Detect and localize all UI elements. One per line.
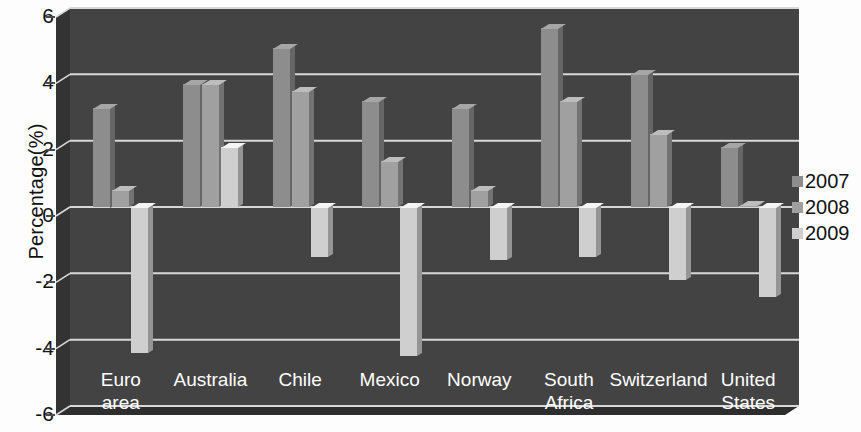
bar-front-face xyxy=(311,207,328,257)
legend-label: 2008 xyxy=(805,197,850,217)
bar-side-face xyxy=(667,131,672,207)
plot-area: Euro areaAustraliaChileMexicoNorwaySouth… xyxy=(48,0,808,432)
bar-front-face xyxy=(131,207,148,353)
legend-swatch-icon xyxy=(792,228,803,239)
bar-front-face xyxy=(381,161,398,207)
legend-swatch-icon xyxy=(792,176,803,187)
bar xyxy=(362,101,379,207)
bar-side-face xyxy=(507,204,512,260)
legend-item[interactable]: 2009 xyxy=(792,220,858,246)
legend-label: 2007 xyxy=(805,171,850,191)
bar xyxy=(202,84,219,207)
bar xyxy=(292,91,309,207)
bar xyxy=(740,205,757,207)
bars-layer: Euro areaAustraliaChileMexicoNorwaySouth… xyxy=(48,0,808,432)
bar xyxy=(452,108,469,208)
bar xyxy=(721,147,738,207)
bar xyxy=(381,161,398,207)
bar xyxy=(183,84,200,207)
bar-side-face xyxy=(238,144,243,207)
bar-side-face xyxy=(309,88,314,207)
bar-front-face xyxy=(471,190,488,207)
bar xyxy=(273,48,290,207)
bar-front-face xyxy=(273,48,290,207)
bar xyxy=(490,207,507,260)
x-axis-category-label: United States xyxy=(695,368,801,414)
bar-front-face xyxy=(490,207,507,260)
bar-front-face xyxy=(112,190,129,207)
bar-front-face xyxy=(650,134,667,207)
legend: 200720082009 xyxy=(792,168,858,246)
bar-side-face xyxy=(776,204,781,297)
bar-chart: Percentage(%) 6420-2-4-6 Euro areaAustra… xyxy=(0,0,861,432)
bar-front-face xyxy=(669,207,686,280)
bar-front-face xyxy=(560,101,577,207)
bar xyxy=(579,207,596,257)
bar xyxy=(669,207,686,280)
bar xyxy=(112,190,129,207)
bar xyxy=(311,207,328,257)
legend-item[interactable]: 2008 xyxy=(792,194,858,220)
bar-side-face xyxy=(398,157,403,207)
bar-front-face xyxy=(93,108,110,208)
bar xyxy=(471,190,488,207)
bar-front-face xyxy=(721,147,738,207)
bar-front-face xyxy=(400,207,417,356)
bar xyxy=(131,207,148,353)
bar-side-face xyxy=(417,204,422,356)
bar-front-face xyxy=(452,108,469,208)
bar-side-face xyxy=(148,204,153,353)
bar xyxy=(650,134,667,207)
bar-front-face xyxy=(541,28,558,207)
bar-front-face xyxy=(292,91,309,207)
bar-side-face xyxy=(328,204,333,257)
bar-side-face xyxy=(596,204,601,257)
y-axis-ticks: 6420-2-4-6 xyxy=(0,0,54,432)
bar xyxy=(93,108,110,208)
bar-side-face xyxy=(686,204,691,280)
bar-front-face xyxy=(183,84,200,207)
bar xyxy=(400,207,417,356)
bar-front-face xyxy=(221,147,238,207)
bar xyxy=(541,28,558,207)
bar-side-face xyxy=(738,144,743,207)
bar-front-face xyxy=(631,74,648,207)
legend-swatch-icon xyxy=(792,202,803,213)
legend-item[interactable]: 2007 xyxy=(792,168,858,194)
bar xyxy=(631,74,648,207)
bar xyxy=(221,147,238,207)
bar-front-face xyxy=(759,207,776,297)
legend-label: 2009 xyxy=(805,223,850,243)
bar xyxy=(560,101,577,207)
bar-front-face xyxy=(202,84,219,207)
bar-front-face xyxy=(579,207,596,257)
bar-front-face xyxy=(362,101,379,207)
bar-side-face xyxy=(577,98,582,207)
bar xyxy=(759,207,776,297)
